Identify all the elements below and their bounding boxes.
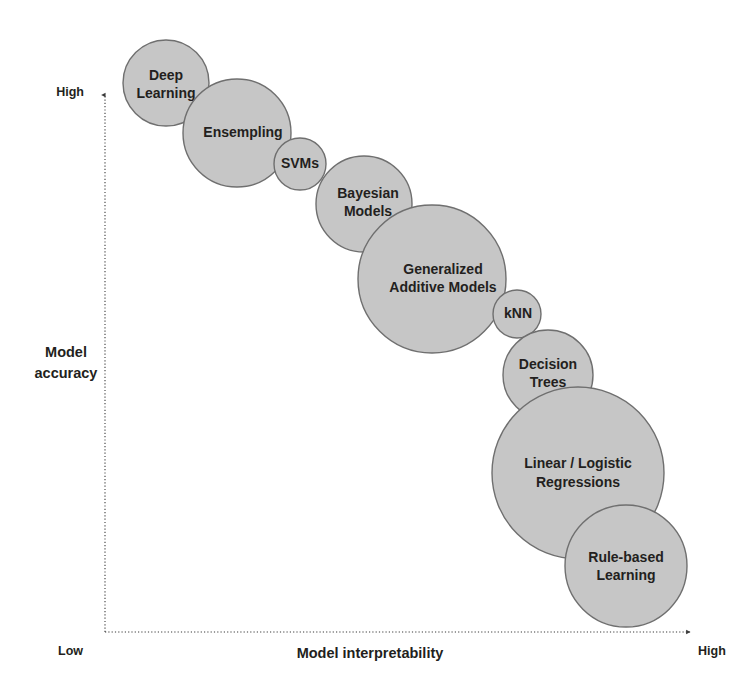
bubble-label-line1: Ensempling <box>203 124 282 140</box>
bubble-label-line2: Trees <box>530 374 567 390</box>
chart-canvas: Deep Learning Ensempling SVMs Bayesian M… <box>0 0 738 698</box>
bubble-rule-based-learning[interactable]: Rule-based Learning <box>565 505 687 627</box>
bubble-label-line1: Deep <box>149 67 183 83</box>
bubble-label-line1: kNN <box>504 305 532 321</box>
bubble-label-line2: Learning <box>596 567 655 583</box>
bubble-knn[interactable]: kNN <box>493 290 541 338</box>
bubble-label-line1: Generalized <box>403 261 482 277</box>
bubble-chart-figure: Deep Learning Ensempling SVMs Bayesian M… <box>0 0 738 698</box>
bubble-label-line2: Learning <box>136 85 195 101</box>
bubble-label-line2: Models <box>344 203 392 219</box>
bubble-label-line2: Regressions <box>536 474 620 490</box>
bubble-label-line1: Rule-based <box>588 549 663 565</box>
y-axis-title-line1: Model <box>45 344 87 360</box>
x-axis-high-label: High <box>698 644 726 658</box>
bubble-series: Deep Learning Ensempling SVMs Bayesian M… <box>123 40 687 627</box>
bubble-label-line1: Linear / Logistic <box>524 455 632 471</box>
x-axis-title: Model interpretability <box>297 645 444 661</box>
y-axis-title-line2: accuracy <box>35 365 98 381</box>
bubble-label-line1: Bayesian <box>337 185 398 201</box>
y-axis-high-label: High <box>56 85 84 99</box>
bubble-label-line2: Additive Models <box>389 279 497 295</box>
bubble-label-line1: SVMs <box>281 155 319 171</box>
bubble-label-line1: Decision <box>519 356 577 372</box>
bubble-svms[interactable]: SVMs <box>274 138 326 190</box>
x-axis-low-label: Low <box>58 644 83 658</box>
bubble-generalized-additive-models[interactable]: Generalized Additive Models <box>358 205 506 353</box>
